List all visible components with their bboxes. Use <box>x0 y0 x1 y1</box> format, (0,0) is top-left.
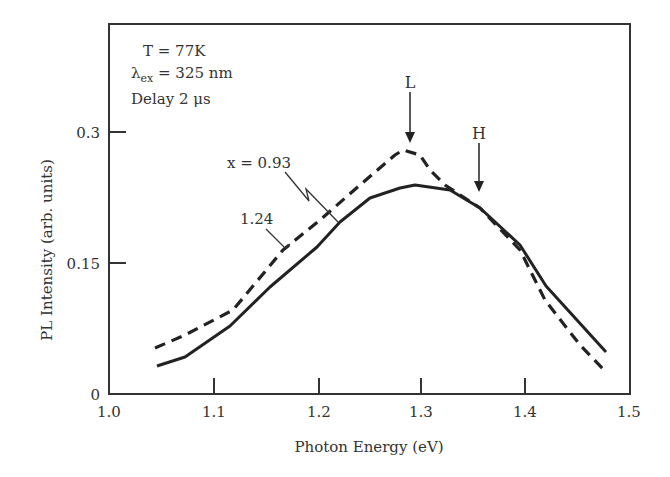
leader-line-1.24 <box>266 229 290 248</box>
x-tick-1.5: 1.5 <box>617 403 641 421</box>
excitation-wavelength-label: λex = 325 nm <box>131 64 233 85</box>
peak-label-H: H <box>472 124 486 143</box>
x-tick-1.0: 1.0 <box>97 403 121 421</box>
curve-x-1.24-dashed <box>155 150 606 372</box>
x-tick-1.4: 1.4 <box>513 403 537 421</box>
pl-spectrum-chart: 0.3 0.15 0 1.0 1.1 1.2 1.3 1.4 1.5 Photo… <box>0 0 670 477</box>
y-tick-0.15: 0.15 <box>67 255 100 273</box>
y-axis-ticks <box>109 132 126 263</box>
x-tick-1.2: 1.2 <box>307 403 331 421</box>
x-axis-ticks <box>214 378 525 394</box>
y-axis-label: PL Intensity (arb. units) <box>38 159 56 341</box>
curve-label-0.93: x = 0.93 <box>227 154 291 172</box>
delay-label: Delay 2 μs <box>131 90 211 108</box>
x-tick-1.1: 1.1 <box>202 403 226 421</box>
peak-label-L: L <box>405 73 416 92</box>
temperature-label: T = 77K <box>143 42 206 60</box>
x-axis-label: Photon Energy (eV) <box>294 438 443 456</box>
y-tick-0.3: 0.3 <box>76 124 100 142</box>
y-tick-0: 0 <box>90 386 100 404</box>
arrow-H-icon <box>474 143 484 192</box>
arrow-L-icon <box>405 92 415 143</box>
curve-label-1.24: 1.24 <box>240 210 273 228</box>
curve-x-0.93-solid <box>157 185 606 366</box>
leader-line-0.93 <box>285 172 338 222</box>
x-tick-1.3: 1.3 <box>409 403 433 421</box>
